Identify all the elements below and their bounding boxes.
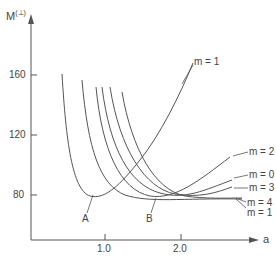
y-tick-label-80: 80 [13,190,24,200]
y-tick-label-160: 160 [9,70,26,80]
leader-B [151,198,156,213]
label-A: A [82,214,89,224]
leader-m0 [234,175,248,178]
leader-A [87,195,93,213]
y-label-sup: (⊥) [15,9,26,16]
y-axis-arrow-icon [28,14,34,24]
label-m2: m = 2 [249,147,274,157]
label-m0: m = 0 [249,170,274,180]
x-axis-label: a [263,234,269,245]
leader-m2 [233,152,248,156]
y-label-main: M [6,10,15,22]
curve-m3 [110,87,232,195]
curve-m0 [102,87,232,195]
x-tick-label-2: 2.0 [173,244,187,254]
label-m3: m = 3 [249,183,274,193]
curve-m1-B [82,80,242,200]
y-axis-label: M(⊥) [6,9,26,22]
leader-m1-top [182,65,193,84]
curve-m1-A [62,63,193,197]
curve-m2 [96,87,230,197]
x-tick-label-1: 1.0 [97,244,111,254]
label-B: B [146,214,153,224]
y-tick-label-120: 120 [9,130,26,140]
label-m1-top: m = 1 [194,57,219,67]
x-axis-arrow-icon [249,237,259,243]
chart-plot [0,0,276,257]
label-m1-bottom: m = 1 [247,208,272,218]
